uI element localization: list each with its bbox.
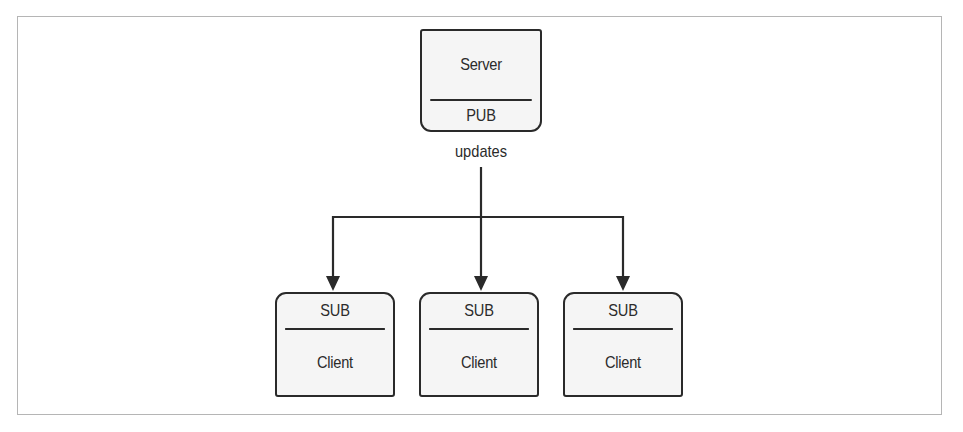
sub-socket-label: SUB (573, 294, 673, 330)
branch-line (333, 217, 623, 278)
client-label: Client (429, 330, 529, 395)
client-label: Client (285, 330, 385, 395)
arrow-down-icon (326, 276, 340, 291)
arrow-down-icon (616, 276, 630, 291)
edge-label-updates: updates (429, 142, 534, 162)
server-node: Server PUB (420, 29, 542, 132)
client-label: Client (573, 330, 673, 395)
pub-socket-label: PUB (430, 101, 531, 130)
client-node: SUB Client (563, 292, 683, 397)
client-node: SUB Client (275, 292, 395, 397)
sub-socket-label: SUB (429, 294, 529, 330)
arrow-down-icon (474, 276, 488, 291)
client-node: SUB Client (419, 292, 539, 397)
server-label: Server (430, 31, 531, 101)
sub-socket-label: SUB (285, 294, 385, 330)
